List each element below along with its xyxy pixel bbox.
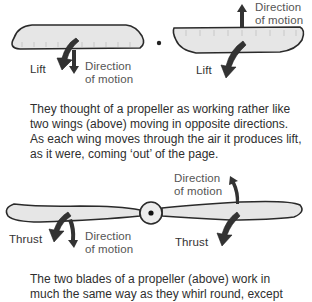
caption-propeller: The two blades of a propeller (above) wo… [30, 272, 302, 302]
left-direction-label: Direction of motion [85, 230, 133, 256]
right-thrust-label: Thrust [175, 236, 208, 249]
left-direction-label: Direction of motion [85, 60, 133, 86]
left-wing [12, 25, 144, 49]
direction-arrow-up-icon [229, 176, 239, 204]
caption-wings: They thought of a propeller as working r… [30, 102, 302, 162]
right-lift-label: Lift [196, 64, 212, 77]
direction-arrow-up-icon [237, 4, 247, 27]
right-direction-label: Direction of motion [255, 1, 303, 27]
separator-dot-icon [157, 41, 161, 45]
direction-arrow-down-icon [68, 219, 78, 248]
left-thrust-label: Thrust [9, 233, 42, 246]
propeller-hub-icon [148, 210, 153, 215]
right-direction-label: Direction of motion [174, 172, 222, 198]
direction-arrow-down-icon [69, 50, 79, 74]
propeller [6, 201, 302, 224]
left-lift-label: Lift [30, 63, 46, 76]
